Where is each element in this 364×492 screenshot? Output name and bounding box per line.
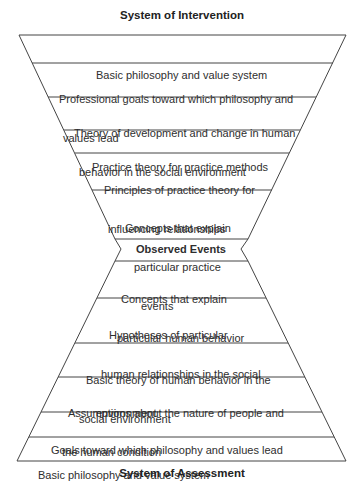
bottom-title: System of Assessment	[0, 467, 364, 479]
observed-events-label: Observed Events	[121, 243, 241, 256]
